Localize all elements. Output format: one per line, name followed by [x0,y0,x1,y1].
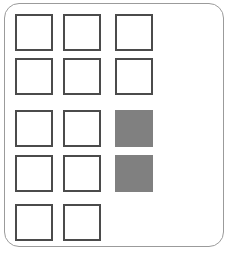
cell-r2c3[interactable] [115,58,153,95]
checkbox-grid [0,0,238,256]
grid-row [0,155,238,192]
cell-r1c2[interactable] [63,14,101,51]
cell-r4c1[interactable] [15,155,53,192]
grid-row [0,204,238,241]
cell-r4c3[interactable] [115,155,153,192]
cell-r3c3[interactable] [115,110,153,147]
cell-r2c1[interactable] [15,58,53,95]
cell-r5c1[interactable] [15,204,53,241]
grid-row [0,110,238,147]
cell-r1c3[interactable] [115,14,153,51]
grid-row [0,14,238,51]
cell-r2c2[interactable] [63,58,101,95]
cell-r1c1[interactable] [15,14,53,51]
grid-row [0,58,238,95]
cell-r3c2[interactable] [63,110,101,147]
cell-r4c2[interactable] [63,155,101,192]
screen-root [0,0,238,256]
cell-r5c2[interactable] [63,204,101,241]
cell-r3c1[interactable] [15,110,53,147]
